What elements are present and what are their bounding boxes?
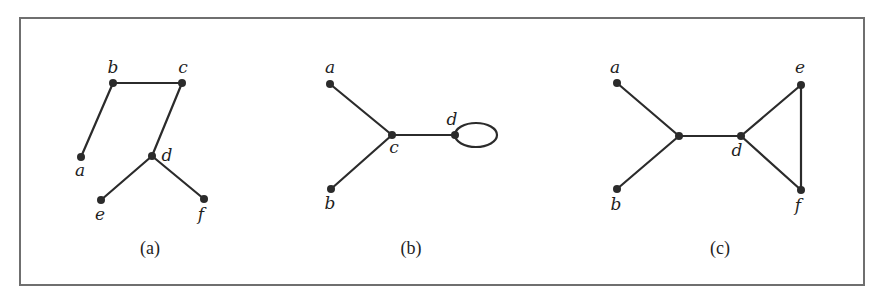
- vertex-label-f: f: [196, 204, 207, 224]
- vertex-label-e: e: [95, 204, 105, 224]
- vertex-a: [326, 80, 334, 88]
- panel-caption-c: (c): [710, 238, 730, 259]
- vertex-e: [97, 196, 105, 204]
- graph-panel-a: abcdef(a): [75, 57, 208, 259]
- vertex-label-b: b: [108, 57, 119, 77]
- vertex-label-b: b: [325, 193, 336, 213]
- vertex-label-b: b: [611, 194, 622, 214]
- vertex-label-c: c: [389, 137, 399, 157]
- edge-a-c: [330, 84, 392, 135]
- vertex-b: [327, 185, 335, 193]
- graph-panels: abcdef(a)abcd(b)abdef(c): [75, 57, 805, 259]
- edge-a-m: [617, 83, 679, 136]
- panel-caption-b: (b): [401, 238, 422, 259]
- graph-panel-c: abdef(c): [610, 57, 805, 259]
- vertex-label-f: f: [793, 195, 804, 215]
- panel-caption-a: (a): [140, 238, 160, 259]
- edge-d-e: [741, 85, 801, 136]
- graph-panel-b: abcd(b): [325, 57, 497, 259]
- vertex-d: [451, 131, 459, 139]
- vertex-c: [178, 79, 186, 87]
- vertex-label-c: c: [178, 57, 188, 77]
- edge-d-f: [741, 136, 801, 190]
- vertex-label-e: e: [795, 57, 805, 77]
- vertex-b: [109, 79, 117, 87]
- edge-d-f: [152, 156, 204, 199]
- vertex-label-a: a: [325, 57, 335, 77]
- vertex-d: [148, 152, 156, 160]
- vertex-a: [613, 79, 621, 87]
- vertex-label-d: d: [162, 145, 173, 165]
- vertex-label-a: a: [75, 160, 85, 180]
- vertex-label-d: d: [732, 140, 743, 160]
- edge-b-m: [617, 136, 679, 189]
- vertex-e: [797, 81, 805, 89]
- vertex-f: [797, 186, 805, 194]
- vertex-label-a: a: [610, 57, 620, 77]
- edge-a-b: [81, 83, 113, 157]
- vertex-d: [737, 132, 745, 140]
- edge-d-e: [101, 156, 152, 200]
- edge-b-c: [331, 135, 392, 189]
- vertex-label-d: d: [447, 109, 458, 129]
- vertex-b: [613, 185, 621, 193]
- loop-edge-d: [455, 123, 497, 147]
- vertex-f: [200, 195, 208, 203]
- graph-figure: abcdef(a)abcd(b)abdef(c): [0, 0, 888, 303]
- vertex-m: [675, 132, 683, 140]
